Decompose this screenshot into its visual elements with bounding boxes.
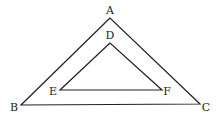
diagram-canvas: A B C D E F [0, 0, 219, 117]
vertex-label-a: A [105, 4, 115, 17]
vertex-label-c: C [202, 101, 210, 114]
vertex-label-e: E [49, 85, 57, 98]
vertex-label-b: B [10, 101, 18, 114]
vertex-label-d: D [106, 29, 115, 42]
inner-triangle-def [60, 43, 162, 90]
vertex-label-f: F [163, 85, 171, 98]
triangle-diagram: A B C D E F [0, 0, 219, 117]
